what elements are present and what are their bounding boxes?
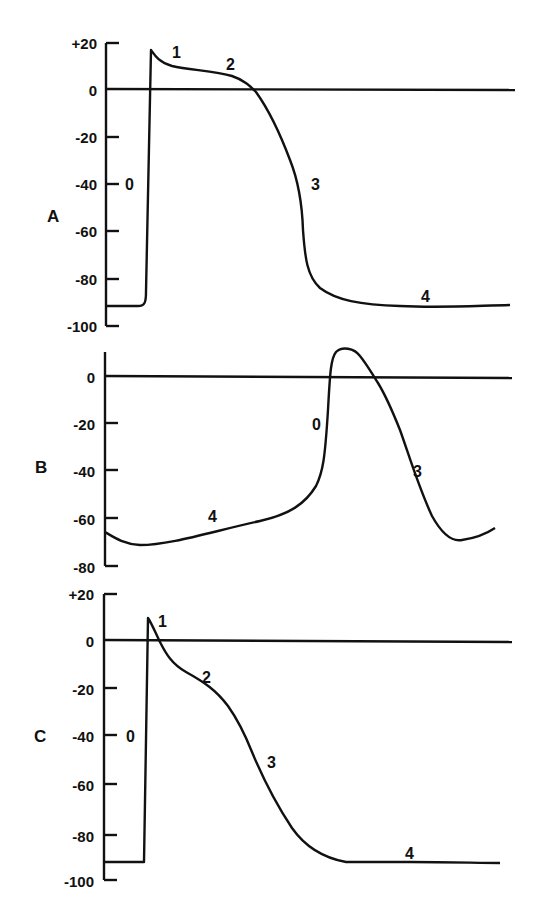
trace-c: [104, 618, 500, 863]
phase-label: 1: [172, 44, 181, 61]
tick-label: +20: [69, 586, 94, 603]
phase-label: 2: [226, 56, 235, 73]
tick-label: -80: [75, 271, 97, 288]
phase-label: 4: [405, 845, 414, 862]
tick-label: 0: [89, 82, 97, 99]
phase-label: 2: [202, 669, 211, 686]
phase-label: 3: [311, 176, 320, 193]
phase-label: 3: [413, 463, 422, 480]
panel-b: B 0 -20 -40 -60 -80 0 3 4: [35, 349, 512, 576]
tick-label: -60: [75, 223, 97, 240]
tick-label: -100: [67, 318, 97, 335]
tick-label: 0: [86, 633, 94, 650]
tick-label: -40: [73, 463, 95, 480]
tick-label: -20: [75, 129, 97, 146]
phase-label: 0: [125, 176, 134, 193]
tick-label: -60: [73, 511, 95, 528]
chart-canvas: A +20 0 -20 -40 -60 -80 -100 0 1 2 3 4 B: [0, 0, 536, 916]
tick-label: +20: [72, 35, 97, 52]
y-axis-c: +20 0 -20 -40 -60 -80 -100: [64, 586, 117, 890]
y-axis-a: +20 0 -20 -40 -60 -80 -100: [67, 35, 119, 335]
panel-a: A +20 0 -20 -40 -60 -80 -100 0 1 2 3 4: [47, 35, 515, 335]
phase-label: 3: [267, 754, 276, 771]
y-axis-b: 0 -20 -40 -60 -80: [73, 352, 118, 576]
phase-label: 0: [312, 416, 321, 433]
zero-line-a: [106, 89, 515, 90]
tick-label: -20: [73, 416, 95, 433]
tick-label: -80: [73, 559, 95, 576]
tick-label: -80: [72, 828, 94, 845]
phase-label: 4: [421, 288, 430, 305]
tick-label: -100: [64, 873, 94, 890]
phase-label: 1: [158, 613, 167, 630]
tick-label: -40: [75, 176, 97, 193]
zero-line-b: [105, 376, 512, 378]
tick-label: 0: [87, 369, 95, 386]
tick-label: -40: [72, 728, 94, 745]
tick-label: -20: [72, 681, 94, 698]
tick-label: -60: [72, 777, 94, 794]
zero-line-c: [104, 640, 512, 642]
panel-label-c: C: [34, 727, 46, 746]
panel-label-a: A: [47, 207, 59, 226]
phase-label: 4: [208, 508, 217, 525]
phase-label: 0: [126, 728, 135, 745]
action-potential-figure: A +20 0 -20 -40 -60 -80 -100 0 1 2 3 4 B: [0, 0, 536, 916]
panel-label-b: B: [35, 458, 47, 477]
panel-c: C +20 0 -20 -40 -60 -80 -100 0 1 2 3 4: [34, 586, 512, 890]
